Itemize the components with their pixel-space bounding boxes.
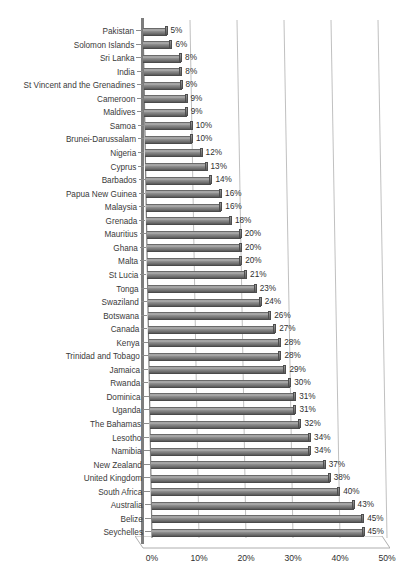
bar-end-cap: [200, 148, 203, 157]
bar: [144, 109, 186, 117]
chart-row: Tonga23%: [0, 284, 398, 298]
bar: [152, 529, 364, 537]
chart-row: Kenya28%: [0, 338, 398, 352]
bar-end-cap: [185, 107, 188, 116]
bar-body: [152, 515, 364, 523]
bar: [145, 149, 201, 157]
category-tick: [140, 274, 146, 275]
bar-body: [144, 68, 182, 76]
bar-body: [150, 421, 300, 429]
bar-value-label: 9%: [191, 93, 203, 104]
bar-body: [149, 353, 281, 361]
category-label: Samoa: [0, 121, 136, 132]
category-label: United Kingdom: [0, 473, 142, 484]
chart-row: The Bahamas32%: [0, 419, 398, 433]
bar: [149, 353, 281, 361]
category-label: St Lucia: [0, 270, 138, 281]
bar-value-label: 45%: [367, 513, 383, 524]
bar: [150, 421, 300, 429]
bar-end-cap: [288, 378, 291, 387]
bar: [146, 190, 221, 198]
chart-row: Seychelles45%: [0, 527, 398, 541]
category-label: Malta: [0, 256, 138, 267]
chart-row: Swaziland24%: [0, 297, 398, 311]
category-tick: [139, 220, 145, 221]
bar-body: [144, 82, 182, 90]
chart-row: Brunei-Darussalam10%: [0, 134, 398, 148]
bar-end-cap: [169, 40, 172, 49]
category-tick: [142, 342, 148, 343]
category-label: Kenya: [0, 338, 140, 349]
category-tick: [144, 477, 150, 478]
category-label: Namibia: [0, 446, 142, 457]
bar: [147, 231, 241, 239]
bar-body: [143, 41, 171, 49]
category-tick: [141, 288, 147, 289]
bar-body: [152, 502, 354, 510]
bar-body: [150, 407, 296, 415]
category-tick: [143, 437, 149, 438]
chart-row: Botswana26%: [0, 311, 398, 325]
bar: [151, 475, 330, 483]
x-axis-tick-label: 0%: [132, 553, 172, 563]
bar-chart: Pakistan5%Solomon Islands6%Sri Lanka8%In…: [0, 0, 398, 577]
bar-value-label: 26%: [274, 310, 290, 321]
category-label: Cameroon: [0, 94, 135, 105]
bar-value-label: 10%: [196, 120, 212, 131]
chart-row: Rwanda30%: [0, 378, 398, 392]
bar-value-label: 5%: [171, 25, 183, 36]
category-label: Trinidad and Tobago: [0, 351, 140, 362]
bar-end-cap: [298, 419, 301, 428]
bar: [147, 271, 246, 279]
category-tick: [136, 30, 142, 31]
chart-row: Malta20%: [0, 256, 398, 270]
category-tick: [138, 125, 144, 126]
chart-row: Malaysia16%: [0, 202, 398, 216]
category-tick: [138, 166, 144, 167]
bar-end-cap: [165, 26, 168, 35]
category-tick: [139, 206, 145, 207]
category-label: Sri Lanka: [0, 53, 135, 64]
category-label: Ghana: [0, 243, 138, 254]
bar-value-label: 14%: [215, 174, 231, 185]
bar-end-cap: [362, 527, 365, 536]
bar-end-cap: [323, 460, 326, 469]
bar-end-cap: [244, 270, 247, 279]
category-tick: [145, 518, 151, 519]
bar-value-label: 20%: [245, 255, 261, 266]
bar-end-cap: [268, 311, 271, 320]
category-tick: [142, 355, 148, 356]
category-label: Dominica: [0, 392, 141, 403]
bar-end-cap: [308, 446, 311, 455]
category-label: Belize: [0, 514, 143, 525]
bar-body: [145, 136, 192, 144]
category-tick: [139, 193, 145, 194]
chart-row: United Kingdom38%: [0, 473, 398, 487]
category-label: Cyprus: [0, 162, 136, 173]
chart-row: St Lucia21%: [0, 270, 398, 284]
chart-row: Uganda31%: [0, 405, 398, 419]
category-tick: [140, 260, 146, 261]
bar-end-cap: [205, 162, 208, 171]
chart-row: Belize45%: [0, 514, 398, 528]
bar: [147, 244, 241, 252]
chart-row: Australia43%: [0, 500, 398, 514]
bar-body: [151, 461, 325, 469]
category-label: Botswana: [0, 311, 139, 322]
bar-end-cap: [278, 351, 281, 360]
category-tick: [140, 247, 146, 248]
category-label: Maldives: [0, 107, 135, 118]
bar-body: [144, 109, 186, 117]
x-axis-tick-label: 20%: [226, 553, 266, 563]
x-axis-tick-label: 50%: [367, 553, 398, 563]
bar: [147, 258, 241, 266]
category-label: Jamaica: [0, 365, 140, 376]
bar-body: [147, 244, 241, 252]
bar: [151, 461, 325, 469]
category-tick: [137, 71, 143, 72]
category-label: Rwanda: [0, 378, 140, 389]
chart-row: Barbados14%: [0, 175, 398, 189]
category-tick: [141, 328, 147, 329]
bar-end-cap: [219, 202, 222, 211]
bar: [144, 68, 182, 76]
